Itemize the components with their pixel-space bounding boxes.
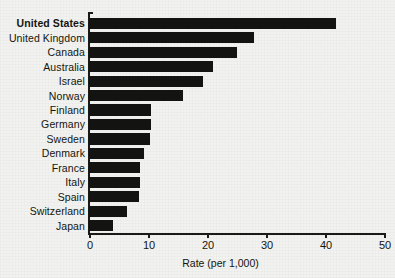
x-axis-tick-label: 20: [202, 240, 214, 251]
bar-row: Spain: [89, 191, 384, 202]
x-axis-tick-label: 40: [320, 240, 332, 251]
bar-row: Canada: [89, 47, 384, 58]
bar: [89, 162, 140, 173]
bar-row: Australia: [89, 61, 384, 72]
category-label: Norway: [49, 90, 85, 101]
x-axis-tick-label: 10: [143, 240, 155, 251]
bar-row: Israel: [89, 76, 384, 87]
category-label: Switzerland: [30, 206, 85, 217]
x-axis-line: [88, 233, 385, 235]
category-label: Spain: [58, 192, 85, 203]
x-axis-tick: [325, 233, 327, 238]
bar: [89, 148, 144, 159]
category-label: Sweden: [46, 134, 85, 145]
x-axis-title: Rate (per 1,000): [0, 257, 395, 269]
bar-row: Japan: [89, 220, 384, 231]
category-label: United States: [17, 18, 85, 29]
y-axis-top-tick: [88, 12, 93, 14]
bar-row: United States: [89, 18, 384, 29]
bar-row: Switzerland: [89, 206, 384, 217]
bar: [89, 32, 254, 43]
bar: [89, 104, 151, 115]
bar-row: Denmark: [89, 148, 384, 159]
category-label: United Kingdom: [9, 32, 85, 43]
x-axis-tick: [207, 233, 209, 238]
bar-row: Sweden: [89, 133, 384, 144]
category-label: Canada: [48, 47, 85, 58]
category-label: Israel: [59, 76, 85, 87]
bar-row: United Kingdom: [89, 32, 384, 43]
bar: [89, 119, 151, 130]
x-axis-tick: [384, 233, 386, 238]
x-axis-tick-label: 50: [379, 240, 391, 251]
x-axis-tick: [266, 233, 268, 238]
category-label: Finland: [50, 105, 85, 116]
x-axis-tick-label: 30: [261, 240, 273, 251]
bar-row: Germany: [89, 119, 384, 130]
category-label: France: [52, 163, 85, 174]
x-axis-tick: [89, 233, 91, 238]
bar-row: Finland: [89, 104, 384, 115]
category-label: Germany: [41, 119, 85, 130]
category-label: Italy: [65, 177, 85, 188]
category-label: Australia: [43, 61, 85, 72]
bar: [89, 61, 213, 72]
bar: [89, 76, 203, 87]
x-axis-tick-label: 0: [87, 240, 93, 251]
bar: [89, 206, 127, 217]
bar-row: Norway: [89, 90, 384, 101]
bar-chart-figure: United StatesUnited KingdomCanadaAustral…: [0, 0, 395, 278]
plot-area: United StatesUnited KingdomCanadaAustral…: [89, 16, 384, 233]
bar: [89, 191, 139, 202]
category-label: Denmark: [42, 148, 85, 159]
bar-row: France: [89, 162, 384, 173]
bar: [89, 18, 336, 29]
bar: [89, 220, 113, 231]
bar: [89, 47, 237, 58]
bar: [89, 90, 183, 101]
x-axis-tick: [148, 233, 150, 238]
bar-row: Italy: [89, 177, 384, 188]
bar: [89, 177, 140, 188]
category-label: Japan: [56, 221, 85, 232]
bar: [89, 133, 150, 144]
